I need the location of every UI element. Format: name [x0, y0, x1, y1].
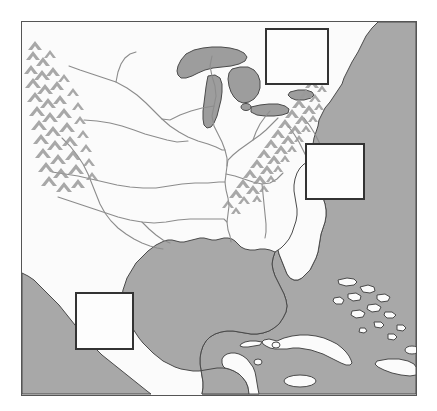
- highlight-box-carolinas[interactable]: [305, 143, 365, 200]
- map-screenshot: [0, 0, 437, 411]
- lake-st-clair: [241, 104, 251, 111]
- jamaica-island: [284, 375, 316, 387]
- highlight-box-northern-mexico[interactable]: [75, 292, 134, 350]
- highlight-box-great-lakes[interactable]: [265, 28, 329, 85]
- map-frame: [21, 21, 417, 396]
- small-island-east: [405, 346, 416, 354]
- lake-erie: [251, 104, 289, 116]
